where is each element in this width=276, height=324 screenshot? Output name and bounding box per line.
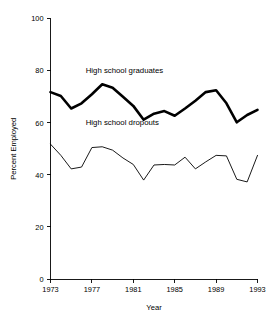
x-axis-title: Year — [146, 303, 162, 312]
y-tick-label-100: 100 — [31, 14, 43, 23]
x-axis-ticks — [51, 279, 258, 283]
y-tick-label-40: 40 — [35, 171, 43, 180]
x-tick-label-1993: 1993 — [249, 285, 265, 294]
y-axis-ticks — [47, 19, 51, 279]
y-tick-label-20: 20 — [35, 223, 43, 232]
x-tick-label-1973: 1973 — [42, 285, 58, 294]
y-tick-label-60: 60 — [35, 119, 43, 128]
y-tick-label-0: 0 — [39, 275, 43, 284]
x-tick-label-1985: 1985 — [166, 285, 182, 294]
chart-canvas: 020406080100 197319771981198519891993 Hi… — [0, 0, 276, 324]
series-line-high-school-graduates — [51, 84, 258, 122]
series-line-high-school-dropouts — [51, 144, 258, 182]
x-tick-label-1989: 1989 — [208, 285, 224, 294]
data-series — [51, 84, 258, 182]
series-label-graduates: High school graduates — [86, 66, 164, 75]
x-axis-tick-labels: 197319771981198519891993 — [42, 285, 265, 294]
y-tick-label-80: 80 — [35, 66, 43, 75]
x-tick-label-1981: 1981 — [125, 285, 141, 294]
series-label-dropouts: High school dropouts — [86, 118, 159, 127]
x-tick-label-1977: 1977 — [84, 285, 100, 294]
y-axis-title: Percent Employed — [9, 118, 18, 180]
axes — [47, 19, 258, 283]
axis-lines — [51, 19, 258, 279]
employment-rate-line-chart: 020406080100 197319771981198519891993 Hi… — [0, 0, 276, 324]
y-axis-tick-labels: 020406080100 — [31, 14, 43, 283]
